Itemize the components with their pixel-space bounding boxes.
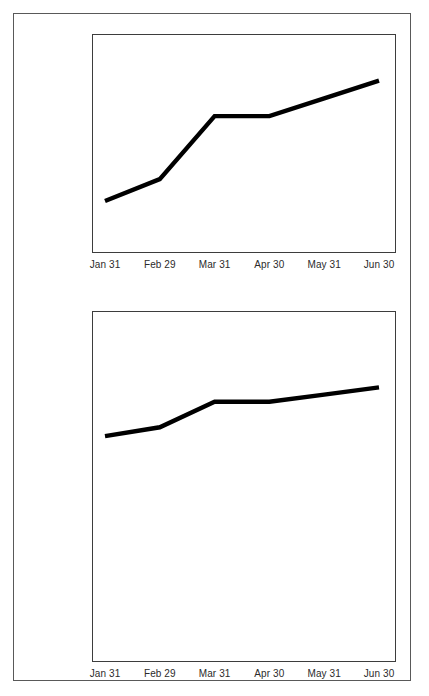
- x-axis-tick-label: Jun 30: [364, 259, 395, 270]
- x-axis-tick-label: Apr 30: [254, 259, 284, 270]
- x-axis-tick-label: Jun 30: [364, 668, 395, 679]
- x-axis-tick-label: Jan 31: [90, 259, 121, 270]
- page-frame: $190,000$200,000$210,000$220,000$230,000…: [13, 13, 411, 681]
- x-axis-tick-label: Apr 30: [254, 668, 284, 679]
- x-axis-tick-label: Feb 29: [144, 259, 176, 270]
- x-axis-tick-label: May 31: [307, 259, 340, 270]
- x-axis-tick-label: Jan 31: [90, 668, 121, 679]
- x-axis-tick-label: May 31: [307, 668, 340, 679]
- x-axis-tick-label: Mar 31: [199, 668, 231, 679]
- x-axis-tick-label: Feb 29: [144, 668, 176, 679]
- x-axis-tick-label: Mar 31: [199, 259, 231, 270]
- plot-area-bottom: [92, 311, 396, 662]
- plot-area-top: [92, 34, 396, 253]
